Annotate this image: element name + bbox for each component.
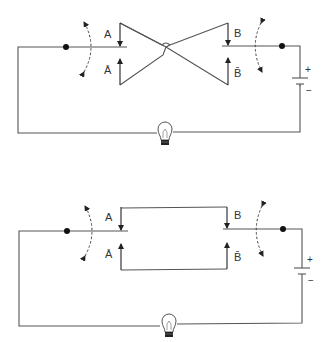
light-bulb-icon xyxy=(162,314,176,337)
switch-throw-arrow-right xyxy=(256,206,263,256)
switch-pivot-right xyxy=(280,226,286,232)
battery-minus: − xyxy=(308,275,314,286)
switch-pivot-right xyxy=(279,43,285,49)
right-wire-lower xyxy=(173,85,300,132)
label-b-bar: B̄ xyxy=(234,67,241,79)
label-b-bar: B̄ xyxy=(234,251,241,263)
battery-minus: − xyxy=(306,85,312,96)
upper-interconnect xyxy=(121,207,227,208)
battery-plus: + xyxy=(305,64,311,75)
label-a-bar: Ā xyxy=(104,64,112,76)
crossed-interconnect xyxy=(120,23,228,85)
label-b: B xyxy=(234,27,241,39)
label-a-bar: Ā xyxy=(105,248,113,260)
battery-plus: + xyxy=(307,254,313,265)
circuit-diagram: A Ā B B̄ + − xyxy=(0,0,330,342)
battery-icon: + − xyxy=(294,254,314,286)
label-a: A xyxy=(104,28,112,40)
switch-pivot-left xyxy=(63,44,69,50)
lower-interconnect xyxy=(121,269,227,270)
right-wire-lower xyxy=(177,276,302,324)
switch-pivot-left xyxy=(64,228,70,234)
label-a: A xyxy=(105,211,113,223)
left-wire xyxy=(18,47,157,133)
bottom-circuit: A Ā B B̄ + − xyxy=(19,206,314,337)
top-circuit: A Ā B B̄ + − xyxy=(18,22,312,145)
switch-throw-arrow-right xyxy=(255,23,262,72)
label-b: B xyxy=(234,209,241,221)
battery-icon: + − xyxy=(292,64,312,96)
left-wire xyxy=(19,231,160,326)
light-bulb-icon xyxy=(158,122,172,145)
